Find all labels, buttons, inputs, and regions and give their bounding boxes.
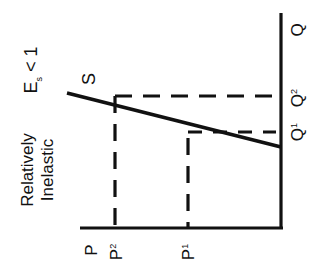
title-line-1: Relatively: [18, 133, 37, 207]
q-axis-label: Q: [288, 23, 307, 36]
q1-tick-label: Q1: [288, 123, 307, 141]
p1-tick-label: P1: [179, 244, 198, 260]
supply-curve-s: [67, 93, 281, 147]
title-line-2: Inelastic: [38, 138, 57, 201]
p-axis-label: P: [82, 244, 101, 255]
q2-tick-label: Q2: [288, 89, 307, 107]
p2-tick-label: P2: [107, 244, 126, 260]
elasticity-label: Es < 1: [21, 46, 44, 93]
curve-label-s: S: [79, 73, 99, 85]
supply-elasticity-chart: S Es < 1 Relatively Inelastic Q Q2 Q1 P …: [0, 0, 317, 273]
